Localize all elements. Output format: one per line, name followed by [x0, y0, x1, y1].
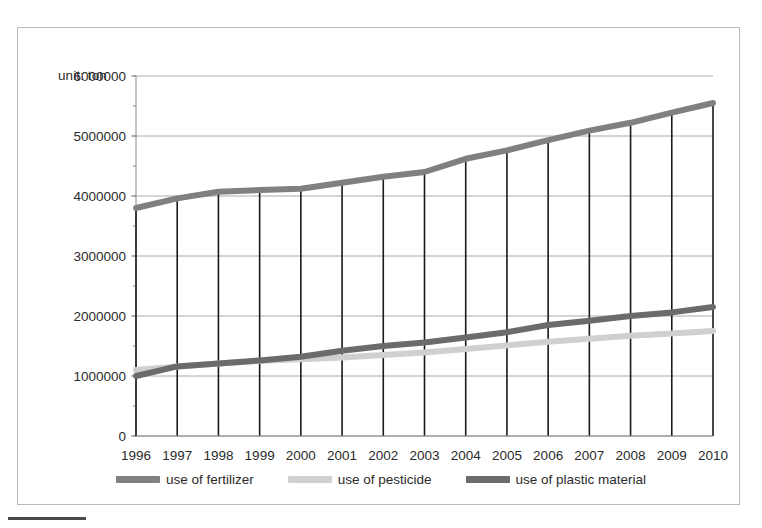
x-axis-tick-label: 2009 — [657, 448, 687, 463]
chart-frame: unit: ton 010000002000000300000040000005… — [17, 27, 740, 505]
x-axis-tick-label: 2007 — [574, 448, 604, 463]
x-axis-tick-label: 1999 — [245, 448, 275, 463]
y-axis-tick-label: 2000000 — [73, 309, 126, 324]
x-axis-tick-label: 1996 — [121, 448, 151, 463]
x-axis-tick-label: 1997 — [162, 448, 192, 463]
x-axis-tick-label: 2005 — [492, 448, 522, 463]
legend-swatch-icon — [116, 476, 160, 483]
legend-item[interactable]: use of plastic material — [466, 472, 647, 487]
x-axis-tick-label: 2008 — [616, 448, 646, 463]
x-axis-tick-label: 2004 — [451, 448, 482, 463]
y-axis-tick-label: 5000000 — [73, 129, 126, 144]
y-axis-tick-label: 6000000 — [73, 69, 126, 84]
x-axis-tick-label: 2010 — [698, 448, 728, 463]
y-axis-tick-label: 4000000 — [73, 189, 126, 204]
legend-item[interactable]: use of pesticide — [288, 472, 432, 487]
legend-item[interactable]: use of fertilizer — [116, 472, 254, 487]
legend-label: use of plastic material — [516, 472, 647, 487]
x-axis-tick-label: 1998 — [203, 448, 233, 463]
bottom-rule — [8, 517, 86, 520]
x-axis-tick-label: 2006 — [533, 448, 563, 463]
line-chart-plot: 0100000020000003000000400000050000006000… — [18, 28, 739, 504]
y-axis-tick-label: 3000000 — [73, 249, 126, 264]
legend-swatch-icon — [288, 476, 332, 483]
legend-label: use of fertilizer — [166, 472, 254, 487]
legend-swatch-icon — [466, 476, 510, 483]
legend-label: use of pesticide — [338, 472, 432, 487]
x-axis-tick-label: 2000 — [286, 448, 316, 463]
x-axis-tick-label: 2002 — [368, 448, 398, 463]
x-axis-tick-label: 2001 — [327, 448, 357, 463]
x-axis-tick-label: 2003 — [409, 448, 439, 463]
y-axis-tick-label: 1000000 — [73, 369, 126, 384]
chart-legend: use of fertilizeruse of pesticideuse of … — [0, 472, 762, 487]
y-axis-tick-label: 0 — [118, 429, 126, 444]
